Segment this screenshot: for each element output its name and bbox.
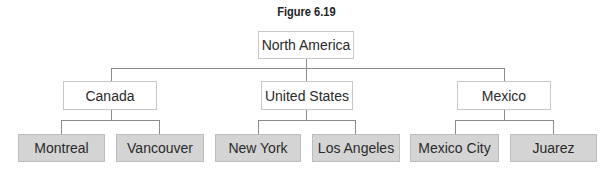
node-new-york: New York bbox=[215, 134, 301, 162]
node-label: Juarez bbox=[532, 140, 574, 156]
node-label: Los Angeles bbox=[318, 140, 394, 156]
node-label: North America bbox=[262, 37, 351, 53]
node-label: Mexico bbox=[482, 88, 526, 104]
figure-title: Figure 6.19 bbox=[46, 4, 567, 19]
node-mexico-city: Mexico City bbox=[410, 134, 499, 162]
node-label: United States bbox=[265, 88, 349, 104]
connector-to-united-states bbox=[306, 68, 307, 81]
connector-to-montreal bbox=[61, 120, 62, 134]
connector-to-juarez bbox=[553, 120, 554, 134]
node-label: Mexico City bbox=[418, 140, 490, 156]
node-canada: Canada bbox=[63, 81, 157, 110]
node-montreal: Montreal bbox=[18, 134, 105, 162]
node-north-america: North America bbox=[258, 31, 354, 59]
connector-to-los-angeles bbox=[355, 120, 356, 134]
connector-united-states-horizontal bbox=[258, 120, 356, 121]
node-mexico: Mexico bbox=[457, 81, 551, 110]
node-united-states: United States bbox=[261, 81, 353, 110]
connector-canada-horizontal bbox=[61, 120, 160, 121]
connector-to-new-york bbox=[258, 120, 259, 134]
connector-to-mexico bbox=[504, 68, 505, 81]
connector-to-vancouver bbox=[159, 120, 160, 134]
connector-mexico-horizontal bbox=[455, 120, 554, 121]
node-juarez: Juarez bbox=[510, 134, 597, 162]
node-label: New York bbox=[228, 140, 287, 156]
node-label: Vancouver bbox=[127, 140, 193, 156]
node-label: Montreal bbox=[34, 140, 88, 156]
connector-to-mexico-city bbox=[455, 120, 456, 134]
connector-to-canada bbox=[111, 68, 112, 81]
node-los-angeles: Los Angeles bbox=[312, 134, 400, 162]
connector-level1-horizontal bbox=[111, 68, 505, 69]
node-label: Canada bbox=[85, 88, 134, 104]
node-vancouver: Vancouver bbox=[116, 134, 204, 162]
